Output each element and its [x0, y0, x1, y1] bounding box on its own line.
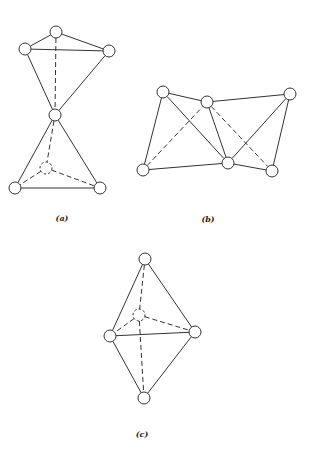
vertex-a_left	[19, 43, 31, 55]
edge-b_bl-b_bm	[149, 163, 222, 169]
vertex-b_tm	[201, 96, 213, 108]
edge-a_right-a_mid	[59, 56, 105, 111]
edge-b_bm-b_tr	[232, 98, 286, 158]
vertex-a_bl	[9, 182, 21, 194]
panel-a-corner-sharing-tetrahedra: (a)	[9, 26, 115, 223]
panel-label-b: (b)	[201, 214, 214, 224]
hidden-edge-c_inner-c_bottom	[139, 321, 143, 392]
edge-c_left-c_bottom	[113, 341, 141, 392]
nodes	[104, 253, 201, 404]
vertex-b_br	[266, 165, 278, 177]
edge-c_top-c_right	[148, 264, 191, 327]
vertex-b_bm	[222, 157, 234, 169]
hidden-edge-a_inner-a_br	[52, 170, 95, 186]
edge-b_tl-b_tm	[169, 93, 201, 100]
edge-a_top-a_right	[62, 34, 104, 49]
edge-c_right-c_bottom	[148, 337, 192, 394]
edge-c_left-c_right	[116, 332, 189, 335]
panel-b-edge-sharing-tetrahedra: (b)	[137, 86, 296, 224]
polyhedra-figure: (a) (b) (c)	[0, 0, 314, 460]
vertex-c_left	[104, 330, 116, 342]
vertex-a_right	[103, 45, 115, 57]
edge-b_tm-b_tr	[213, 95, 284, 102]
edge-b_tl-b_bl	[144, 98, 161, 164]
hidden-edge-c_top-c_inner	[140, 265, 145, 309]
edge-a_mid-a_br	[58, 120, 97, 183]
vertex-c_right	[189, 326, 201, 338]
edge-b_tm-b_bm	[209, 108, 226, 158]
edges	[112, 264, 191, 393]
vertex-a_mid	[49, 109, 61, 121]
hidden-edge-a_top-a_mid	[55, 38, 56, 109]
edge-a_top-a_left	[30, 35, 50, 46]
edge-a_left-a_mid	[27, 54, 52, 109]
vertex-c_bottom	[138, 392, 150, 404]
vertex-b_tr	[284, 88, 296, 100]
hidden-vertex-a_inner	[40, 162, 52, 174]
panel-label-c: (c)	[136, 429, 149, 439]
vertex-c_top	[139, 253, 151, 265]
hidden-edge-b_tm-b_br	[211, 106, 268, 166]
hidden-edge-c_inner-c_right	[145, 317, 190, 331]
vertex-b_bl	[137, 164, 149, 176]
edges	[18, 34, 105, 188]
hidden-edge-b_bl-b_tm	[147, 106, 203, 165]
hidden-vertex-c_inner	[133, 309, 145, 321]
vertex-a_top	[50, 26, 62, 38]
panel-label-a: (a)	[56, 213, 69, 223]
vertex-a_br	[94, 182, 106, 194]
panel-c-face-sharing-tetrahedra: (c)	[104, 253, 201, 439]
edge-b_bm-b_br	[234, 164, 266, 170]
edges	[144, 93, 288, 170]
edge-a_left-a_right	[31, 49, 103, 51]
hidden-edge-c_inner-c_left	[115, 319, 134, 333]
vertex-b_tl	[157, 86, 169, 98]
